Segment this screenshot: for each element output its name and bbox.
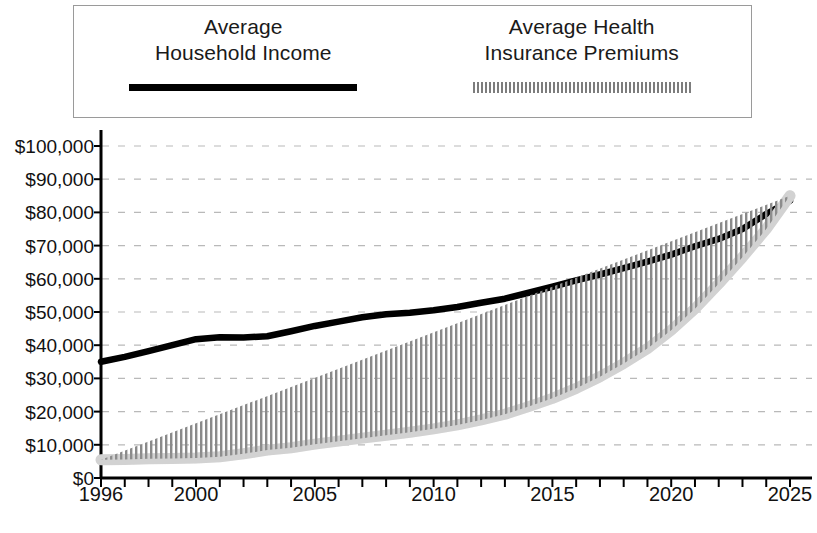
- legend-label-household-income: Average Household Income: [155, 14, 332, 66]
- series-line-health-premiums: [0, 130, 817, 533]
- legend-label-health-premiums: Average Health Insurance Premiums: [485, 14, 679, 66]
- legend-swatch-wrap-health-premiums: [426, 80, 737, 94]
- data-series-group: [0, 130, 817, 533]
- chart-legend: Average Household Income Average Health …: [73, 5, 752, 118]
- legend-entry-household-income: Average Household Income: [88, 6, 399, 94]
- chart-plot-svg: [0, 130, 817, 533]
- legend-swatch-wrap-household-income: [88, 80, 399, 94]
- legend-swatch-hatched-line-icon: [473, 82, 691, 93]
- legend-entry-health-premiums: Average Health Insurance Premiums: [426, 6, 737, 94]
- legend-swatch-solid-line-icon: [129, 84, 357, 91]
- plot-area: $100,000$90,000$80,000$70,000$60,000$50,…: [0, 130, 817, 533]
- chart-figure: Average Household Income Average Health …: [0, 0, 817, 533]
